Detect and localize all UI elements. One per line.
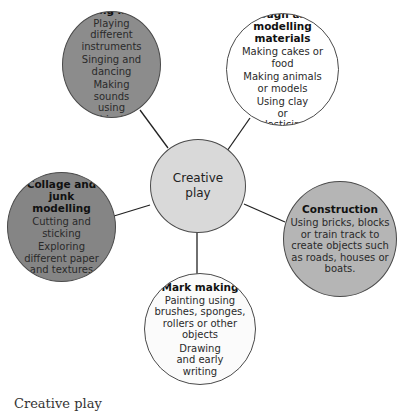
node-making-music: Making music Playing different instrumen…: [62, 11, 161, 118]
node-title: Collage and junk modelling: [12, 178, 111, 214]
center-node-creative-play: Creative play: [150, 139, 246, 233]
connector-construction: [244, 204, 285, 222]
node-item: Singing and dancing: [67, 54, 156, 77]
node-title: Construction: [302, 203, 378, 215]
node-item: Playing different instruments: [67, 18, 156, 53]
node-item: Painting using brushes, sponges, rollers…: [148, 295, 252, 341]
center-label-line2: play: [185, 186, 210, 201]
node-item: Using bricks, blocks or train track to c…: [288, 217, 392, 275]
connector-music: [140, 110, 168, 148]
node-construction: Construction Using bricks, blocks or tra…: [283, 181, 397, 297]
node-collage-junk: Collage and junk modelling Cutting and s…: [7, 172, 116, 282]
node-title: Mark making: [162, 281, 239, 293]
connector-dough: [227, 118, 250, 151]
node-item: Making cakes or food: [230, 46, 335, 69]
connector-collage: [114, 205, 150, 216]
node-item: Making animals or models: [230, 71, 335, 94]
center-label-line1: Creative: [173, 171, 223, 186]
figure-caption: Creative play: [14, 396, 102, 411]
node-item: Cutting and sticking: [12, 216, 111, 239]
node-dough-modelling: Dough and modelling materials Making cak…: [226, 13, 339, 126]
node-mark-making: Mark making Painting using brushes, spon…: [144, 273, 256, 385]
